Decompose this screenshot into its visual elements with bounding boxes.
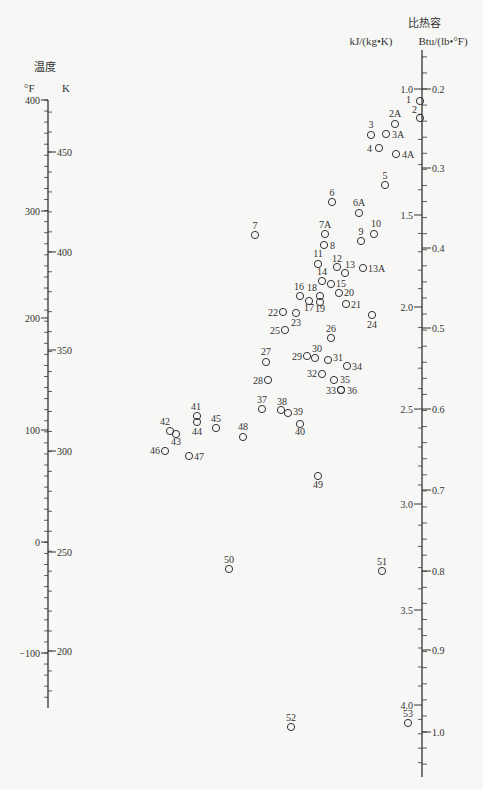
temperature-f-tick-label: 300 xyxy=(25,206,40,217)
point-label: 14 xyxy=(317,266,327,277)
point-marker-icon xyxy=(324,356,331,363)
point-marker-icon xyxy=(375,144,382,151)
data-point: 40 xyxy=(295,420,305,437)
specific-heat-btu-tick-label: 0.7 xyxy=(432,485,445,496)
data-point: 2A xyxy=(389,108,402,128)
point-marker-icon xyxy=(277,406,284,413)
point-label: 41 xyxy=(191,401,201,412)
point-label: 4A xyxy=(402,149,415,160)
point-label: 6 xyxy=(330,187,335,198)
specific-heat-kj-tick-label: 2.0 xyxy=(401,302,414,313)
data-point: 21 xyxy=(342,299,361,310)
data-point: 4A xyxy=(392,149,415,160)
point-marker-icon xyxy=(284,409,291,416)
data-point: 19 xyxy=(315,298,325,314)
point-marker-icon xyxy=(335,289,342,296)
temperature-k-tick-label: 300 xyxy=(57,446,72,457)
point-marker-icon xyxy=(225,565,232,572)
point-label: 18 xyxy=(307,282,317,293)
point-label: 11 xyxy=(313,248,323,259)
data-point: 6A xyxy=(353,197,366,217)
specific-heat-kj-tick-label: 2.5 xyxy=(401,404,414,415)
point-marker-icon xyxy=(341,269,348,276)
specific-heat-btu-tick-label: 0.3 xyxy=(432,163,445,174)
point-label: 1 xyxy=(406,94,411,105)
specific-heat-unit-kj: kJ/(kg•K) xyxy=(350,35,393,48)
temperature-axis-title: 温度 xyxy=(34,60,56,73)
data-point: 17 xyxy=(304,297,314,313)
data-point: 26 xyxy=(326,323,336,342)
point-marker-icon xyxy=(279,308,286,315)
data-point: 29 xyxy=(292,351,311,362)
temperature-f-tick-label: 400 xyxy=(25,95,40,106)
point-marker-icon xyxy=(378,567,385,574)
point-marker-icon xyxy=(330,376,337,383)
point-label: 10 xyxy=(371,218,381,229)
specific-heat-btu-tick-label: 1.0 xyxy=(432,727,445,738)
point-label: 13A xyxy=(368,263,386,274)
point-label: 53 xyxy=(403,708,413,719)
point-marker-icon xyxy=(161,447,168,454)
point-label: 34 xyxy=(352,361,362,372)
point-label: 46 xyxy=(150,445,160,456)
data-point: 25 xyxy=(270,325,289,336)
specific-heat-btu-tick-label: 0.2 xyxy=(432,84,445,95)
data-point: 28 xyxy=(253,375,272,386)
point-marker-icon xyxy=(185,452,192,459)
specific-heat-btu-tick-label: 0.6 xyxy=(432,404,445,415)
data-point: 48 xyxy=(238,421,248,441)
point-marker-icon xyxy=(343,362,350,369)
data-point: 3A xyxy=(382,129,405,140)
data-point: 6 xyxy=(328,187,335,206)
point-label: 5 xyxy=(383,170,388,181)
point-label: 13 xyxy=(345,259,355,270)
temperature-unit-f: °F xyxy=(24,82,35,94)
point-label: 42 xyxy=(160,416,170,427)
point-label: 29 xyxy=(292,351,302,362)
data-point: 4 xyxy=(367,143,383,154)
point-label: 37 xyxy=(257,394,267,405)
point-label: 43 xyxy=(171,436,181,447)
data-point: 46 xyxy=(150,445,169,456)
temperature-k-tick-label: 350 xyxy=(57,345,72,356)
point-label: 36 xyxy=(347,385,357,396)
specific-heat-kj-tick-label: 3.5 xyxy=(401,605,414,616)
specific-heat-kj-tick-label: 1.5 xyxy=(401,210,414,221)
point-marker-icon xyxy=(281,326,288,333)
data-point: 53 xyxy=(403,708,413,727)
specific-heat-btu-tick-label: 0.9 xyxy=(432,645,445,656)
point-marker-icon xyxy=(357,237,364,244)
point-marker-icon xyxy=(262,358,269,365)
point-label: 25 xyxy=(270,325,280,336)
point-marker-icon xyxy=(327,334,334,341)
temperature-f-tick-label: 100 xyxy=(25,425,40,436)
data-points: 122A33A44A566A77A891011121313A1415161817… xyxy=(150,94,424,731)
point-marker-icon xyxy=(333,263,340,270)
temperature-unit-k: K xyxy=(62,82,70,94)
data-point: 52 xyxy=(286,712,296,731)
data-point: 34 xyxy=(343,361,362,372)
data-point: 14 xyxy=(317,266,327,285)
point-label: 12 xyxy=(332,253,342,264)
point-label: 50 xyxy=(224,554,234,565)
point-marker-icon xyxy=(327,280,334,287)
point-marker-icon xyxy=(311,354,318,361)
data-point: 24 xyxy=(367,311,377,330)
point-label: 38 xyxy=(277,396,287,407)
data-point: 3 xyxy=(367,119,374,139)
temperature-k-tick-label: 450 xyxy=(57,147,72,158)
point-label: 19 xyxy=(315,303,325,314)
specific-heat-kj-tick-label: 3.0 xyxy=(401,499,414,510)
point-marker-icon xyxy=(318,370,325,377)
data-point: 39 xyxy=(284,406,303,417)
point-label: 32 xyxy=(307,368,317,379)
point-marker-icon xyxy=(303,352,310,359)
point-label: 7A xyxy=(319,219,332,230)
data-point: 31 xyxy=(324,352,343,364)
point-marker-icon xyxy=(318,277,325,284)
data-point: 42 xyxy=(160,416,174,435)
point-label: 33 xyxy=(326,385,336,396)
point-label: 4 xyxy=(367,143,372,154)
point-label: 28 xyxy=(253,375,263,386)
point-label: 22 xyxy=(268,307,278,318)
